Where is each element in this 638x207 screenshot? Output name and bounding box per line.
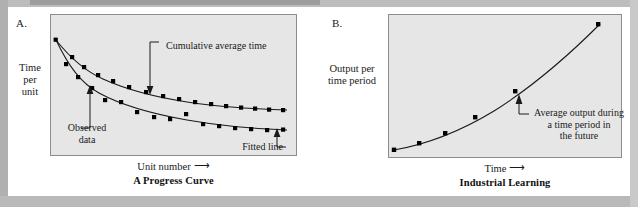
panel-a: A. Time per unit [8,7,318,196]
annotation-observed-data-line-1: Observed [57,122,117,134]
annotation-cumulative-average-time: Cumulative average time [166,40,267,52]
annotation-observed-data-line-2: data [57,134,117,146]
panel-b-xaxis-arrow-icon: ⟶ [509,161,525,173]
panel-b-ylabel-line-1: Output per [318,63,386,75]
panel-b: B. Output per time period [318,7,630,196]
panel-a-xaxis-label: Unit number⟶ [50,160,297,172]
annotation-average-output-line-3: the future [529,130,629,142]
panel-a-xaxis-arrow-icon: ⟶ [194,159,210,171]
annotation-fitted-line: Fitted line [201,141,283,153]
figure-canvas: A. Time per unit [8,7,630,196]
scan-band-bottom [0,196,638,207]
scan-band-left [0,0,8,207]
panel-a-xaxis-text: Unit number [137,161,190,172]
cumulative-average-time-leader [150,42,159,87]
scan-band-top-dark [30,0,320,5]
panel-a-ylabel-line-1: Time [8,62,52,74]
annotation-average-output-line-2: a time period in [529,119,629,131]
panel-a-caption: A Progress Curve [50,175,297,186]
panel-a-ylabel-line-2: per [8,74,52,86]
panel-b-plot-area: Average output during a time period in t… [388,14,622,158]
fitted-line-curve [56,40,287,130]
panel-b-letter: B. [332,17,343,29]
panel-b-xaxis-text: Time [485,163,507,174]
panel-a-plot-area: Cumulative average time Observed data Fi… [50,14,297,156]
panel-b-ylabel-line-2: time period [318,75,386,87]
panel-a-ylabel-line-3: unit [8,86,52,98]
panel-b-xaxis-label: Time⟶ [388,162,622,174]
average-output-leader [519,103,529,114]
panel-a-letter: A. [16,17,27,29]
panel-a-ylabel: Time per unit [8,62,52,98]
annotation-average-output-line-1: Average output during [529,107,629,119]
panel-b-ylabel: Output per time period [318,63,386,87]
panel-b-caption: Industrial Learning [388,177,622,188]
scan-band-right [630,0,638,207]
annotation-observed-data: Observed data [57,122,117,145]
figure-page: A. Time per unit [0,0,638,207]
annotation-average-output-future: Average output during a time period in t… [529,107,629,142]
